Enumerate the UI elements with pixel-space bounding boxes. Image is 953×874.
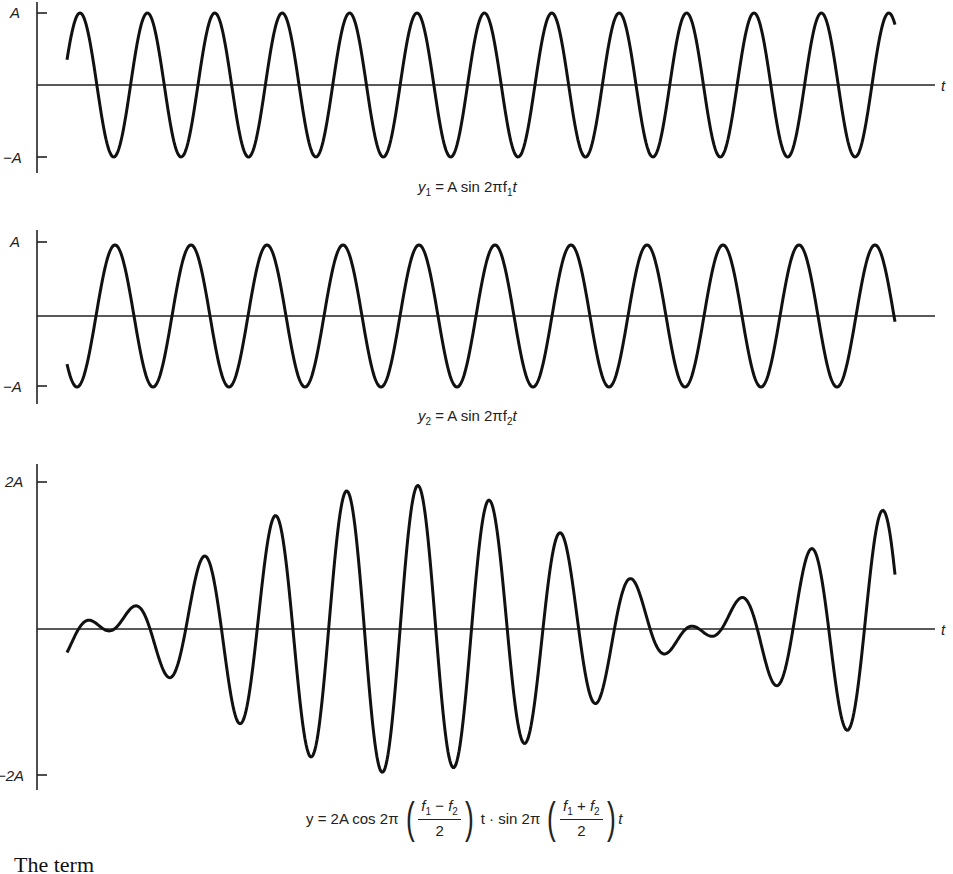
open-paren: (	[547, 796, 556, 840]
y2-tick-label-top: A	[10, 234, 20, 249]
fraction-difference: f1 − f22	[418, 798, 461, 838]
y1-caption: y1 = A sin 2πf1t	[418, 179, 517, 198]
close-paren: )	[465, 796, 474, 840]
y1-tick-label-bottom: −A	[3, 150, 22, 165]
y2-caption: y2 = A sin 2πf2t	[418, 408, 517, 427]
y2-tick-label-bottom: −A	[3, 379, 22, 394]
body-text: The term	[14, 852, 94, 874]
y1-tick-label-top: A	[10, 5, 20, 20]
beats-diagram	[0, 0, 953, 874]
fraction-sum: f1 + f22	[560, 798, 603, 838]
y-tick-label-bottom: −2A	[0, 768, 24, 783]
panel-y1-axes	[37, 2, 935, 173]
panel-y-axes	[37, 464, 935, 790]
close-paren: )	[607, 796, 616, 840]
y1-t-axis-label: t	[941, 78, 945, 93]
open-paren: (	[406, 796, 415, 840]
y-tick-label-top: 2A	[5, 474, 23, 489]
beat-equation-caption: y = 2A cos 2π (f1 − f22) t · sin 2π (f1 …	[306, 796, 622, 840]
y-t-axis-label: t	[941, 622, 945, 637]
